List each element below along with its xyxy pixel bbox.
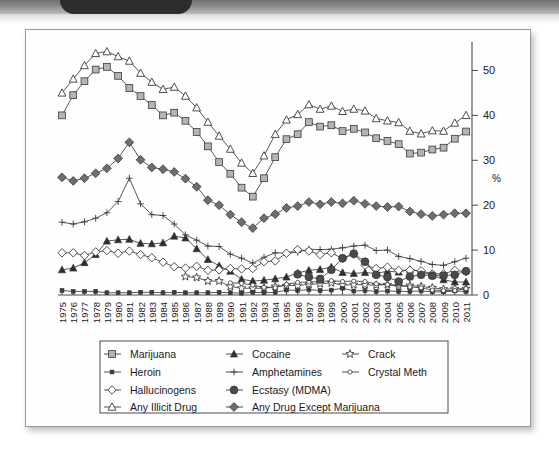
x-tick-label: 2003 (371, 302, 382, 323)
legend-item[interactable]: Hallucinogens (104, 384, 196, 396)
legend-item[interactable]: Any Illicit Drug (104, 401, 197, 413)
legend-label: Crack (368, 348, 396, 360)
series-path (185, 277, 466, 290)
y-axis-unit-label: % (492, 173, 501, 184)
legend-label: Cocaine (252, 348, 291, 360)
legend-item[interactable]: Crystal Meth (342, 366, 427, 378)
legend-label: Any Drug Except Marijuana (252, 401, 380, 413)
x-tick-label: 2005 (394, 302, 405, 323)
x-tick-label: 1992 (248, 302, 259, 323)
header-band-fade (0, 14, 559, 24)
x-tick-label: 1994 (270, 302, 281, 323)
x-tick-label: 1982 (136, 302, 147, 323)
x-tick-label: 1989 (214, 302, 225, 323)
chart-legend: MarijuanaCocaineCrackHeroinAmphetaminesC… (100, 341, 448, 413)
x-tick-label: 1996 (293, 302, 304, 323)
y-tick-label: 40 (483, 109, 495, 121)
page-root: 01020304050%1975197619771978197919801981… (0, 0, 559, 449)
x-tick-label: 1975 (57, 302, 68, 323)
x-tick-label: 1978 (91, 302, 102, 323)
legend-item[interactable]: Crack (342, 348, 396, 360)
x-tick-label: 1990 (225, 302, 236, 323)
x-tick-label: 1977 (79, 302, 90, 323)
x-tick-label: 1979 (102, 302, 113, 323)
x-tick-label: 2006 (405, 302, 416, 323)
legend-label: Amphetamines (252, 366, 322, 378)
legend-label: Ecstasy (MDMA) (252, 384, 331, 396)
x-tick-label: 1983 (147, 302, 158, 323)
legend-label: Marijuana (130, 348, 176, 360)
x-tick-label: 1981 (124, 302, 135, 323)
y-tick-label: 10 (483, 244, 495, 256)
legend-item[interactable]: Ecstasy (MDMA) (226, 384, 331, 396)
x-tick-label: 2007 (416, 302, 427, 323)
x-tick-label: 2004 (382, 302, 393, 323)
legend-item[interactable]: Cocaine (226, 348, 291, 360)
x-tick-label: 1988 (203, 302, 214, 323)
x-tick-label: 2001 (349, 302, 360, 323)
legend-item[interactable]: Marijuana (104, 348, 176, 360)
x-tick-label: 1997 (304, 302, 315, 323)
legend-item[interactable]: Heroin (104, 366, 161, 378)
x-tick-label: 1998 (315, 302, 326, 323)
y-tick-label: 20 (483, 199, 495, 211)
legend-item[interactable]: Amphetamines (226, 366, 322, 378)
x-tick-label: 1991 (237, 302, 248, 323)
x-tick-label: 1993 (259, 302, 270, 323)
x-tick-label: 2000 (338, 302, 349, 323)
legend-label: Crystal Meth (368, 366, 427, 378)
legend-label: Hallucinogens (130, 384, 196, 396)
x-tick-label: 1980 (113, 302, 124, 323)
x-tick-label: 1976 (68, 302, 79, 323)
x-tick-label: 2011 (461, 302, 472, 322)
x-tick-label: 2010 (450, 302, 461, 323)
x-tick-label: 1986 (180, 302, 191, 323)
x-tick-label: 2008 (427, 302, 438, 323)
header-dark-tab (60, 0, 192, 14)
x-tick-label: 1984 (158, 302, 169, 323)
x-tick-label: 1999 (326, 302, 337, 323)
y-tick-label: 50 (483, 64, 495, 76)
x-tick-label: 2002 (360, 302, 371, 323)
x-tick-label: 1987 (192, 302, 203, 323)
x-tick-label: 2009 (439, 302, 450, 323)
chart-card: 01020304050%1975197619771978197919801981… (25, 29, 531, 427)
drug-use-line-chart: 01020304050%1975197619771978197919801981… (26, 30, 530, 426)
y-tick-label: 0 (483, 289, 489, 301)
y-tick-label: 30 (483, 154, 495, 166)
x-tick-label: 1995 (281, 302, 292, 323)
legend-label: Heroin (130, 366, 161, 378)
x-tick-label: 1985 (169, 302, 180, 323)
legend-label: Any Illicit Drug (130, 401, 197, 413)
legend-item[interactable]: Any Drug Except Marijuana (226, 401, 380, 413)
